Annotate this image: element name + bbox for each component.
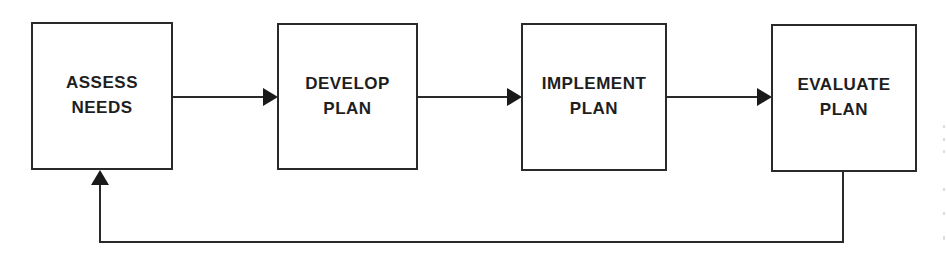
step-label-line1: IMPLEMENT [542, 71, 647, 96]
arrowhead-icon [757, 88, 772, 106]
arrowhead-icon [91, 170, 109, 185]
arrow-develop-to-implement [417, 88, 522, 106]
step-develop-plan: DEVELOP PLAN [277, 23, 418, 170]
step-label-line2: PLAN [570, 96, 618, 121]
step-label-line1: ASSESS [66, 70, 138, 95]
step-label-line1: EVALUATE [797, 72, 890, 97]
step-label-line2: NEEDS [71, 95, 132, 120]
step-implement-plan: IMPLEMENT PLAN [521, 23, 667, 171]
process-diagram: ASSESS NEEDS DEVELOP PLAN IMPLEMENT PLAN… [0, 0, 946, 268]
step-evaluate-plan: EVALUATE PLAN [771, 24, 917, 172]
step-label-line2: PLAN [820, 97, 868, 122]
arrow-implement-to-evaluate [666, 88, 772, 106]
arrow-assess-to-develop [172, 88, 278, 106]
step-assess-needs: ASSESS NEEDS [31, 22, 173, 170]
step-label-line1: DEVELOP [305, 71, 390, 96]
step-label-line2: PLAN [323, 96, 371, 121]
arrowhead-icon [263, 88, 278, 106]
arrowhead-icon [507, 88, 522, 106]
arrow-evaluate-to-assess-feedback [91, 170, 843, 242]
